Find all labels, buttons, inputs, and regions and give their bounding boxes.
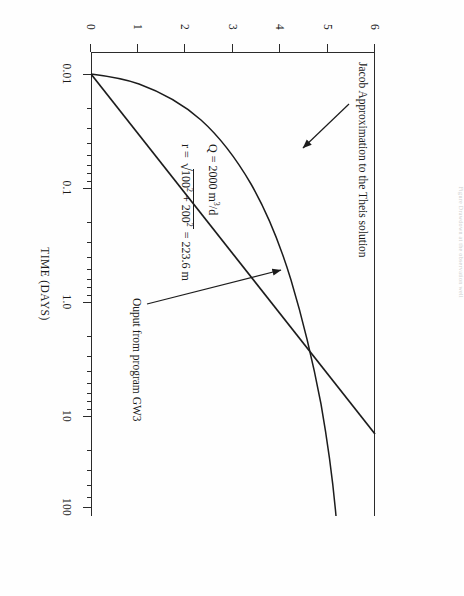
radius-term-2: 200 <box>179 205 193 223</box>
radius-symbol: r <box>179 144 193 148</box>
time-minor-tick <box>87 222 91 223</box>
time-minor-tick <box>87 409 91 410</box>
time-minor-tick <box>87 173 91 174</box>
curves-layer <box>91 52 375 516</box>
time-tick-label: 10 <box>61 410 73 422</box>
radius-term-2-exponent: 2 <box>185 223 194 227</box>
drawdown-tick-label: 3 <box>227 24 239 30</box>
time-minor-tick <box>87 257 91 258</box>
drawdown-tick-5 <box>327 44 328 52</box>
time-tick-10 <box>83 416 91 417</box>
time-tick-100 <box>83 507 91 508</box>
radius-result: 223.6 m <box>179 242 193 281</box>
drawdown-tick-6 <box>374 44 375 52</box>
drawdown-tick-label: 5 <box>322 24 334 30</box>
time-minor-tick <box>87 450 91 451</box>
equals-sign: = <box>206 156 220 163</box>
radius-term-1-exponent: 2 <box>185 188 194 192</box>
drawdown-tick-4 <box>279 44 280 52</box>
time-minor-tick <box>87 371 91 372</box>
parameter-formula-block: Q = 2000 m3/d r = √1002 + 2002 = 223.6 m <box>171 144 225 281</box>
time-minor-tick <box>87 242 91 243</box>
drawdown-tick-3 <box>232 44 233 52</box>
time-minor-tick <box>87 383 91 384</box>
rotated-figure-container: 0.01 0.1 1.0 10 100 TIME (DAYS) 0 1 2 3 <box>39 52 423 544</box>
time-minor-tick <box>87 143 91 144</box>
time-tick-0.1 <box>83 188 91 189</box>
drawdown-tick-label: 0 <box>85 24 97 30</box>
time-minor-tick <box>87 295 91 296</box>
discharge-magnitude: 2000 m <box>206 165 220 201</box>
plot-area: 0.01 0.1 1.0 10 100 TIME (DAYS) 0 1 2 3 <box>91 52 375 516</box>
drawdown-tick-label: 4 <box>274 24 286 30</box>
drawdown-tick-label: 1 <box>132 24 144 30</box>
drawdown-tick-1 <box>137 44 138 52</box>
discharge-formula-line: Q = 2000 m3/d <box>201 144 225 281</box>
jacob-annotation-label: Jacob Approximation to the Theis solutio… <box>357 62 369 258</box>
time-tick-1.0 <box>83 302 91 303</box>
time-tick-0.01 <box>83 74 91 75</box>
plus-sign: + <box>179 195 193 202</box>
discharge-symbol: Q <box>206 144 220 153</box>
radicand: 1002 + 2002 <box>179 169 194 229</box>
gw3-annotation-label: Ouput from program GW3 <box>131 298 143 422</box>
time-tick-label: 0.1 <box>61 181 73 196</box>
drawdown-tick-2 <box>184 44 185 52</box>
time-minor-tick <box>87 269 91 270</box>
drawdown-tick-label: 2 <box>179 24 191 30</box>
time-minor-tick <box>87 287 91 288</box>
time-minor-tick <box>87 108 91 109</box>
square-root-expression: √1002 + 2002 <box>171 161 201 229</box>
radius-formula-line: r = √1002 + 2002 = 223.6 m <box>171 144 201 281</box>
time-minor-tick <box>87 155 91 156</box>
page-edge-caption: Figure Drawdown at the observation well <box>458 186 464 298</box>
time-minor-tick <box>87 181 91 182</box>
time-minor-tick <box>87 485 91 486</box>
time-minor-tick <box>87 279 91 280</box>
drawdown-tick-0 <box>90 44 91 52</box>
time-minor-tick <box>87 165 91 166</box>
time-axis-title: TIME (DAYS) <box>39 247 51 320</box>
time-minor-tick <box>87 401 91 402</box>
time-minor-tick <box>87 336 91 337</box>
series-gw3-theis-curve <box>91 74 336 516</box>
drawdown-tick-label: 6 <box>369 24 381 30</box>
time-tick-label: 1.0 <box>61 295 73 310</box>
discharge-denominator: /d <box>206 206 220 215</box>
time-minor-tick <box>87 356 91 357</box>
time-tick-label: 0.01 <box>61 64 73 85</box>
time-minor-tick <box>87 128 91 129</box>
equals-sign-2: = <box>179 232 193 239</box>
time-tick-label: 100 <box>61 498 73 516</box>
radius-term-1: 100 <box>179 170 193 188</box>
time-minor-tick <box>87 393 91 394</box>
time-minor-tick <box>87 497 91 498</box>
equals-sign: = <box>179 151 193 158</box>
time-minor-tick <box>87 470 91 471</box>
